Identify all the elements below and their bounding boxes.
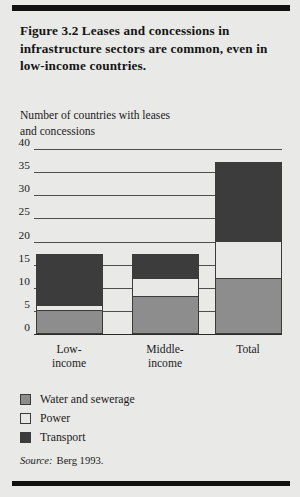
y-axis-tick-label: 40 (4, 136, 30, 148)
bar-segment-power[interactable] (215, 241, 282, 279)
bar-segment-water-and-sewerage[interactable] (132, 296, 199, 334)
x-axis-label-low-income: Low-income (21, 343, 117, 371)
bar-total[interactable] (215, 149, 282, 334)
bar-segment-transport[interactable] (132, 254, 199, 278)
legend-item-water[interactable]: Water and sewerage (20, 390, 135, 409)
source-label: Source: (20, 455, 53, 466)
y-axis-tick-label: 10 (4, 275, 30, 287)
x-axis-label-total: Total (200, 343, 296, 357)
y-axis-tick-label: 20 (4, 229, 30, 241)
legend-label-water: Water and sewerage (40, 392, 135, 407)
bar-low-income[interactable] (36, 149, 103, 334)
source-note: Source:Berg 1993. (20, 455, 103, 466)
bar-segment-transport[interactable] (215, 162, 282, 242)
legend-swatch-water-icon (20, 394, 31, 405)
y-axis-tick-label: 0 (4, 321, 30, 333)
bar-segment-water-and-sewerage[interactable] (215, 278, 282, 335)
y-axis-tick-label: 25 (4, 205, 30, 217)
legend-swatch-transport-icon (20, 432, 31, 443)
y-axis-tick-label: 35 (4, 159, 30, 171)
y-axis-tick-label: 15 (4, 252, 30, 264)
x-axis-label-middle-income: Middle-income (117, 343, 213, 371)
legend-label-power: Power (40, 411, 70, 426)
legend-item-transport[interactable]: Transport (20, 428, 135, 447)
y-axis-tick-label: 30 (4, 182, 30, 194)
legend-label-transport: Transport (40, 430, 85, 445)
legend-item-power[interactable]: Power (20, 409, 135, 428)
x-axis-baseline (34, 334, 282, 335)
bar-middle-income[interactable] (132, 149, 199, 334)
bar-segment-water-and-sewerage[interactable] (36, 310, 103, 334)
bar-segment-transport[interactable] (36, 254, 103, 306)
bar-segment-power[interactable] (132, 278, 199, 298)
legend-swatch-power-icon (20, 413, 31, 424)
y-axis-tick-label: 5 (4, 298, 30, 310)
chart-legend: Water and sewerage Power Transport (20, 390, 135, 447)
figure-panel: { "figure": { "title": "Figure 3.2 Lease… (0, 0, 300, 497)
source-value: Berg 1993. (57, 455, 104, 466)
